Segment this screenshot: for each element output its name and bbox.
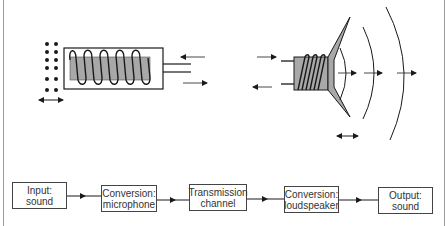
- flow-step-label: loudspeaker: [284, 200, 338, 211]
- flow-step-label: Output:: [389, 190, 422, 201]
- sound-particles-icon: [45, 42, 58, 92]
- flow-step-label: sound: [392, 201, 419, 212]
- flow-step-label: sound: [26, 196, 53, 207]
- loudspeaker-illustration: [253, 7, 416, 140]
- flow-step-input-sound: Input: sound: [12, 182, 67, 209]
- flow-step-label: microphone: [103, 199, 155, 210]
- flow-step-label: Conversion:: [102, 188, 155, 199]
- microphone-illustration: [39, 42, 207, 100]
- flow-step-label: channel: [200, 198, 235, 209]
- flow-step-label: Input:: [27, 185, 52, 196]
- flow-step-output-sound: Output: sound: [378, 187, 433, 214]
- speaker-cone: [328, 17, 350, 117]
- flow-step-conversion-microphone: Conversion: microphone: [101, 185, 157, 212]
- flow-step-label: Conversion:: [285, 189, 338, 200]
- flow-step-conversion-loudspeaker: Conversion: loudspeaker: [284, 186, 339, 213]
- flow-step-label: Transmission: [188, 187, 247, 198]
- flow-step-transmission-channel: Transmission channel: [189, 184, 247, 211]
- sound-wave-arc: [386, 7, 404, 140]
- sound-wave-arc: [340, 48, 346, 100]
